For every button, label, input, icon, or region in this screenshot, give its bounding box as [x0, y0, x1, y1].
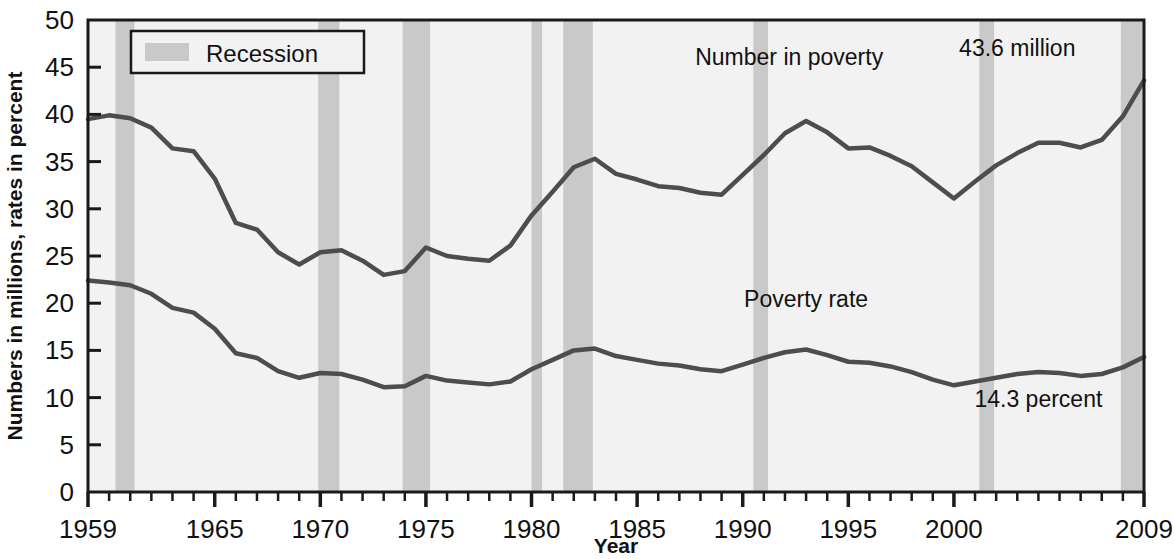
x-tick-label-1959: 1959: [59, 514, 117, 544]
x-tick-label-1995: 1995: [819, 514, 877, 544]
poverty-chart: 05101520253035404550 1959196519701975198…: [0, 0, 1174, 559]
recession-band-1: [318, 20, 339, 492]
x-tick-label-1980: 1980: [503, 514, 561, 544]
y-tick-label-40: 40: [45, 99, 74, 129]
y-axis-title: Numbers in millions, rates in percent: [3, 72, 26, 441]
y-tick-label-30: 30: [45, 194, 74, 224]
recession-band-0: [115, 20, 134, 492]
y-tick-label-50: 50: [45, 5, 74, 35]
recession-band-5: [753, 20, 768, 492]
legend: Recession: [131, 31, 364, 73]
y-tick-label-15: 15: [45, 335, 74, 365]
y-tick-label-5: 5: [60, 430, 74, 460]
y-tick-label-10: 10: [45, 383, 74, 413]
annotation-14-3-percent: 14.3 percent: [974, 386, 1102, 412]
legend-label-recession: Recession: [206, 40, 318, 67]
legend-swatch-recession: [145, 43, 189, 61]
x-tick-label-1975: 1975: [397, 514, 455, 544]
x-tick-label-1965: 1965: [186, 514, 244, 544]
recession-band-7: [1121, 20, 1144, 492]
annotation-poverty-rate: Poverty rate: [744, 286, 868, 312]
x-axis-title: Year: [594, 534, 638, 557]
y-tick-label-35: 35: [45, 147, 74, 177]
recession-band-3: [532, 20, 543, 492]
x-tick-label-1970: 1970: [291, 514, 349, 544]
y-tick-label-45: 45: [45, 52, 74, 82]
y-tick-label-25: 25: [45, 241, 74, 271]
x-tick-label-2009: 2009: [1115, 514, 1173, 544]
y-tick-label-0: 0: [60, 477, 74, 507]
annotation-43-6-million: 43.6 million: [959, 35, 1075, 61]
chart-canvas: 05101520253035404550 1959196519701975198…: [0, 0, 1174, 559]
annotation-number-in-poverty: Number in poverty: [695, 44, 883, 70]
y-tick-label-20: 20: [45, 288, 74, 318]
x-tick-label-2000: 2000: [925, 514, 983, 544]
recession-band-6: [979, 20, 994, 492]
recession-band-4: [563, 20, 593, 492]
x-tick-label-1990: 1990: [714, 514, 772, 544]
